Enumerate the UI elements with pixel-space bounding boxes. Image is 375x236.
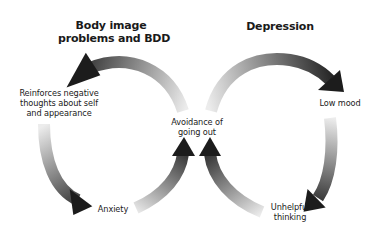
- title-line: Body image: [58, 19, 164, 32]
- label-line: going out: [162, 127, 232, 137]
- arrow-unhelpful-to-avoidance: [199, 137, 262, 212]
- title-body-image-bdd: Body image problems and BDD: [58, 19, 164, 45]
- node-anxiety: Anxiety: [93, 204, 133, 214]
- node-reinforces-negative-thoughts: Reinforces negative thoughts about self …: [4, 88, 114, 118]
- node-avoidance-of-going-out: Avoidance of going out: [162, 117, 232, 137]
- label-line: thoughts about self: [4, 98, 114, 108]
- node-unhelpful-thinking: Unhelpful thinking: [262, 202, 318, 222]
- label-line: and appearance: [4, 108, 114, 118]
- arrow-anxiety-to-avoidance: [136, 137, 195, 208]
- node-low-mood: Low mood: [315, 98, 365, 108]
- arrow-reinforces-to-anxiety: [44, 124, 93, 215]
- arrow-low-mood-to-unhelpful: [304, 118, 332, 215]
- label-line: Reinforces negative: [4, 88, 114, 98]
- title-depression: Depression: [240, 20, 320, 33]
- label-line: thinking: [262, 212, 318, 222]
- label-line: Avoidance of: [162, 117, 232, 127]
- title-line: problems and BDD: [58, 32, 164, 45]
- label-line: Unhelpful: [262, 202, 318, 212]
